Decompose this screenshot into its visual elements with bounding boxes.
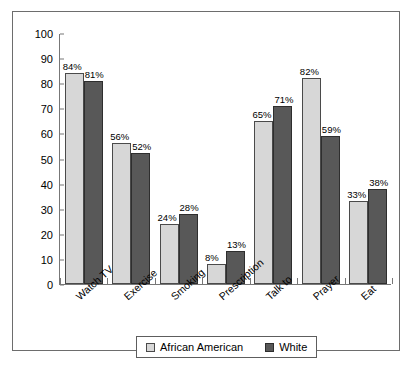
chart-legend: African AmericanWhite (136, 336, 317, 358)
bar-value-label: 56% (110, 132, 129, 142)
y-axis-tick-label: 50 (41, 154, 60, 165)
y-axis-tick-mark (60, 159, 64, 160)
y-axis-tick-label: 10 (41, 254, 60, 265)
y-axis-tick-mark (60, 285, 64, 286)
bar-value-label: 38% (369, 178, 388, 188)
y-axis-tick-mark (60, 184, 64, 185)
bar-african-american (302, 78, 321, 284)
x-axis-category-label: Eat (359, 283, 378, 302)
bar-value-label: 52% (132, 142, 151, 152)
y-axis-tick-mark (60, 109, 64, 110)
bar-value-label: 33% (347, 190, 366, 200)
bar-white (273, 106, 292, 284)
legend-label: African American (160, 341, 243, 353)
y-axis-tick-mark (60, 259, 64, 260)
y-axis-tick-label: 30 (41, 204, 60, 215)
y-axis-tick-mark (60, 209, 64, 210)
bar-group: 33%38% (349, 34, 387, 284)
plot-area: 1009080706050403020100 84%81%56%52%24%28… (59, 34, 391, 285)
bar-value-label: 84% (63, 62, 82, 72)
y-axis-tick-label: 0 (47, 280, 60, 291)
bar-group: 8%13% (207, 34, 245, 284)
chart-frame: 1009080706050403020100 84%81%56%52%24%28… (12, 11, 400, 351)
legend-item: White (265, 341, 307, 353)
bar-african-american (112, 143, 131, 284)
bar-value-label: 81% (85, 70, 104, 80)
y-axis-tick-mark (60, 84, 64, 85)
bar-african-american (349, 201, 368, 284)
bar-value-label: 13% (227, 240, 246, 250)
y-axis-tick-label: 100 (35, 29, 60, 40)
bar-group: 24%28% (160, 34, 198, 284)
bar-group: 65%71% (254, 34, 292, 284)
x-axis-tick-mark (107, 278, 108, 284)
x-axis-tick-mark (297, 278, 298, 284)
bar-value-label: 24% (158, 213, 177, 223)
legend-item: African American (146, 341, 243, 353)
bar-white (131, 153, 150, 284)
x-axis-tick-mark (60, 278, 61, 284)
y-axis-tick-label: 40 (41, 179, 60, 190)
bar-value-label: 28% (180, 203, 199, 213)
x-axis-tick-mark (392, 278, 393, 284)
legend-label: White (279, 341, 307, 353)
y-axis-tick-label: 20 (41, 229, 60, 240)
y-axis-tick-mark (60, 134, 64, 135)
bar-group: 56%52% (112, 34, 150, 284)
bar-white (84, 81, 103, 284)
legend-swatch-icon (265, 343, 274, 352)
y-axis-tick-label: 70 (41, 104, 60, 115)
bar-group: 84%81% (65, 34, 103, 284)
bar-value-label: 82% (300, 67, 319, 77)
x-axis-tick-mark (202, 278, 203, 284)
bar-african-american (65, 73, 84, 284)
bar-value-label: 71% (274, 95, 293, 105)
legend-swatch-icon (146, 343, 155, 352)
bar-value-label: 59% (322, 125, 341, 135)
x-axis-tick-mark (155, 278, 156, 284)
y-axis-tick-label: 60 (41, 129, 60, 140)
bar-value-label: 8% (205, 253, 219, 263)
x-axis-tick-mark (250, 278, 251, 284)
y-axis-tick-mark (60, 59, 64, 60)
y-axis-tick-label: 80 (41, 79, 60, 90)
bar-value-label: 65% (252, 110, 271, 120)
bar-white (368, 189, 387, 284)
y-axis-tick-mark (60, 234, 64, 235)
bar-african-american (160, 224, 179, 284)
y-axis-tick-label: 90 (41, 54, 60, 65)
bar-african-american (207, 264, 226, 284)
bar-group: 82%59% (302, 34, 340, 284)
x-axis-tick-mark (345, 278, 346, 284)
bar-white (321, 136, 340, 284)
y-axis-tick-mark (60, 34, 64, 35)
